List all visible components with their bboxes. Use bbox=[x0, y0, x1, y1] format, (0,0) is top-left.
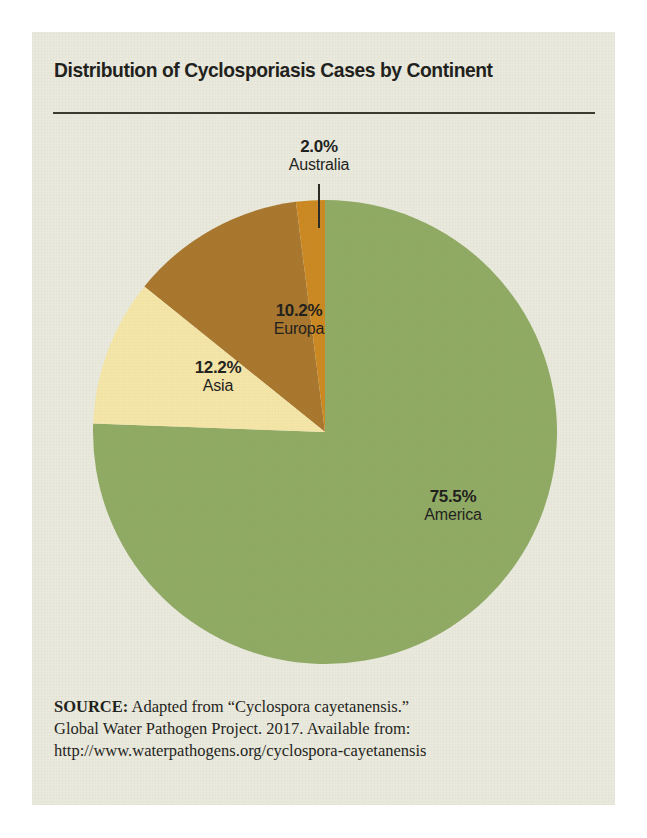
source-lead: SOURCE: bbox=[54, 697, 128, 716]
pie-label-asia: 12.2% Asia bbox=[163, 359, 273, 395]
pie-label-europa-name: Europa bbox=[239, 320, 359, 337]
pie-label-asia-value: 12.2% bbox=[163, 359, 273, 377]
pie-chart: 2.0% Australia 10.2% Europa 12.2% Asia 7… bbox=[32, 32, 615, 805]
source-line-2: Global Water Pathogen Project. 2017. Ava… bbox=[54, 718, 599, 740]
pie-label-australia-name: Australia bbox=[254, 156, 384, 173]
pie-label-europa: 10.2% Europa bbox=[239, 302, 359, 338]
pie-label-asia-name: Asia bbox=[163, 377, 273, 394]
pie-label-america-name: America bbox=[383, 506, 523, 523]
pie-label-america: 75.5% America bbox=[383, 488, 523, 524]
australia-leader-line bbox=[318, 184, 320, 228]
pie-label-america-value: 75.5% bbox=[383, 488, 523, 506]
source-line-1-rest: Adapted from “Cyclospora cayetanensis.” bbox=[128, 697, 409, 716]
pie-label-australia: 2.0% Australia bbox=[254, 138, 384, 174]
figure-card: Distribution of Cyclosporiasis Cases by … bbox=[32, 32, 615, 805]
pie-chart-svg bbox=[93, 200, 557, 664]
source-line-1: SOURCE: Adapted from “Cyclospora cayetan… bbox=[54, 696, 599, 718]
source-line-3: http://www.waterpathogens.org/cyclospora… bbox=[54, 740, 599, 762]
source-note: SOURCE: Adapted from “Cyclospora cayetan… bbox=[54, 696, 599, 762]
pie-label-australia-value: 2.0% bbox=[254, 138, 384, 156]
pie-label-europa-value: 10.2% bbox=[239, 302, 359, 320]
